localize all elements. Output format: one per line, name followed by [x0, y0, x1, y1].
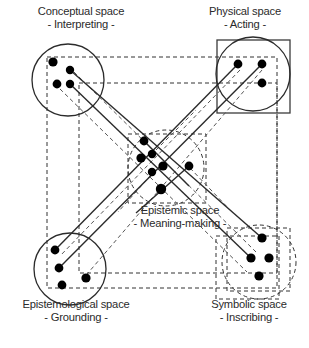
diagram-graphics: [0, 0, 309, 348]
circle-epistemological: [34, 233, 106, 305]
physical-space-name: Physical space: [185, 5, 305, 18]
label-epistemological-space: Epistemological space - Grounding -: [0, 298, 152, 324]
epistemic-space-activity: - Meaning-making -: [110, 217, 250, 230]
node: [246, 253, 255, 262]
solid-link-tl-br-2: [70, 84, 251, 258]
circle-conceptual: [32, 44, 104, 116]
frame-epistemic: [128, 134, 206, 203]
label-conceptual-space: Conceptual space - Interpreting -: [6, 5, 156, 31]
node: [55, 264, 64, 273]
node: [258, 79, 267, 88]
dashed-link-4: [82, 70, 262, 280]
epistemological-space-activity: - Grounding -: [0, 311, 152, 324]
node: [136, 153, 145, 162]
node: [156, 184, 166, 194]
conceptual-space-name: Conceptual space: [6, 5, 156, 18]
diagram-canvas: Conceptual space - Interpreting - Physic…: [0, 0, 309, 348]
label-epistemic-space: Epistemic space - Meaning-making -: [110, 204, 250, 230]
physical-space-activity: - Acting -: [185, 18, 305, 31]
epistemic-space-name: Epistemic space: [110, 204, 250, 217]
node: [66, 66, 74, 74]
label-symbolic-space: Symbolic space - Inscribing -: [190, 298, 308, 324]
nodes-epistemic: [136, 137, 193, 195]
node: [185, 162, 194, 171]
dashed-connectors: [60, 70, 262, 280]
node: [234, 60, 243, 69]
epistemological-space-name: Epistemological space: [0, 298, 152, 311]
node: [58, 281, 67, 290]
dashed-link-5: [151, 110, 196, 155]
node: [258, 60, 267, 69]
node: [264, 253, 273, 262]
node: [51, 246, 60, 255]
dashed-link-2: [60, 89, 247, 272]
node: [53, 80, 62, 89]
node: [140, 137, 149, 146]
node: [257, 233, 266, 242]
node: [148, 150, 156, 158]
node: [148, 168, 156, 176]
node: [81, 273, 90, 282]
nodes-epistemological: [51, 246, 91, 290]
symbolic-space-activity: - Inscribing -: [190, 311, 308, 324]
node: [66, 80, 74, 88]
symbolic-space-name: Symbolic space: [190, 298, 308, 311]
label-physical-space: Physical space - Acting -: [185, 5, 305, 31]
node: [158, 161, 167, 170]
conceptual-space-activity: - Interpreting -: [6, 18, 156, 31]
nodes-conceptual: [48, 57, 74, 88]
nodes-symbolic: [246, 233, 273, 280]
node: [48, 57, 57, 66]
frame-outer-b: [79, 83, 277, 273]
node: [254, 271, 263, 280]
